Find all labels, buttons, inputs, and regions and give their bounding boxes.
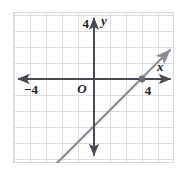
coordinate-plane-figure: 4 y −4 4 x O: [0, 0, 186, 172]
x-axis-name-label: x: [156, 59, 164, 74]
x-axis-tick-label-4: 4: [145, 83, 152, 98]
graph-canvas: 4 y −4 4 x O: [0, 0, 186, 172]
y-axis-name-label: y: [99, 13, 107, 28]
origin-label: O: [77, 81, 87, 96]
data-point-x-intercept: [139, 76, 146, 83]
x-axis-tick-label-negative-4: −4: [24, 82, 38, 97]
y-axis-tick-label-4: 4: [83, 16, 90, 31]
